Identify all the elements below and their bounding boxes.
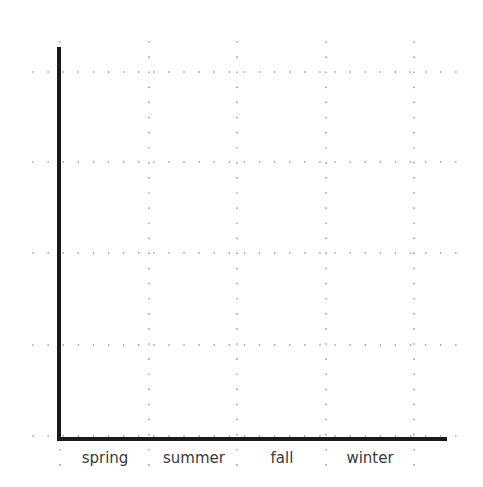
chart-area: [0, 0, 483, 487]
x-tick-label-fall: fall: [271, 449, 294, 467]
grid-horizontal: [33, 72, 462, 436]
grid-vertical: [60, 42, 414, 470]
x-tick-label-summer: summer: [163, 449, 225, 467]
x-tick-label-spring: spring: [82, 449, 129, 467]
x-tick-label-winter: winter: [346, 449, 393, 467]
